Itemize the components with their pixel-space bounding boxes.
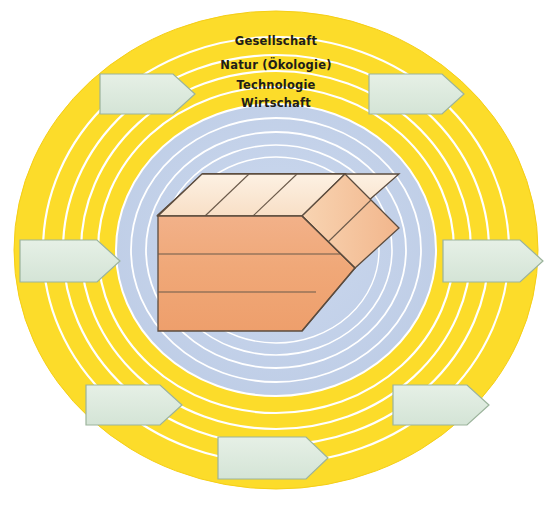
ring-label-natur: Natur (Ökologie) — [220, 57, 331, 72]
ring-label-gesellschaft: Gesellschaft — [235, 34, 318, 48]
arrow-bottom-center[interactable] — [218, 437, 328, 479]
diagram-root: Gesellschaft Natur (Ökologie) Technologi… — [0, 0, 552, 506]
ring-label-technologie: Technologie — [236, 78, 315, 92]
diagram-canvas: Gesellschaft Natur (Ökologie) Technologi… — [0, 0, 552, 506]
ring-label-wirtschaft: Wirtschaft — [241, 96, 311, 110]
